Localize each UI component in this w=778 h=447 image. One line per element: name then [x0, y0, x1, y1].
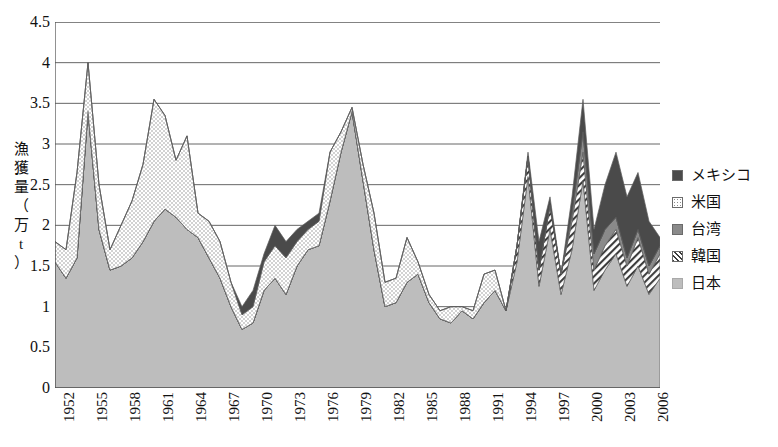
x-axis-tick-label: 1970	[260, 392, 275, 422]
legend-item-taiwan: 台湾	[672, 216, 772, 243]
legend-label-mexico: メキシコ	[691, 168, 751, 183]
legend-item-korea: 韓国	[672, 243, 772, 270]
x-axis-tick-label: 1952	[62, 392, 77, 422]
legend-swatch-mexico	[672, 170, 683, 181]
x-axis-tick-label: 1961	[161, 392, 176, 422]
x-axis-tick-label: 1958	[128, 392, 143, 422]
legend-swatch-japan	[672, 278, 683, 289]
chart-legend: メキシコ 米国 台湾 韓国 日本	[672, 162, 772, 297]
x-axis-tick-label: 1964	[194, 392, 209, 422]
legend-swatch-korea	[672, 251, 683, 262]
legend-swatch-taiwan	[672, 224, 683, 235]
x-axis-tick-label: 1994	[524, 392, 539, 422]
x-axis-tick-label: 1967	[227, 392, 242, 422]
legend-item-mexico: メキシコ	[672, 162, 772, 189]
x-axis-tick-label: 2003	[623, 392, 638, 422]
legend-label-usa: 米国	[691, 195, 721, 210]
x-axis-tick-label: 1982	[392, 392, 407, 422]
x-axis-tick-label: 1976	[326, 392, 341, 422]
x-axis-tick-labels: 1952195519581961196419671970197319761979…	[0, 0, 778, 447]
legend-swatch-usa	[672, 197, 683, 208]
legend-label-japan: 日本	[691, 276, 721, 291]
x-axis-tick-label: 1979	[359, 392, 374, 422]
x-axis-tick-label: 1985	[425, 392, 440, 422]
x-axis-tick-label: 2000	[590, 392, 605, 422]
x-axis-tick-label: 1955	[95, 392, 110, 422]
x-axis-tick-label: 1991	[491, 392, 506, 422]
x-axis-tick-label: 2006	[656, 392, 671, 422]
x-axis-tick-label: 1973	[293, 392, 308, 422]
legend-label-taiwan: 台湾	[691, 222, 721, 237]
legend-label-korea: 韓国	[691, 249, 721, 264]
x-axis-tick-label: 1997	[557, 392, 572, 422]
chart-figure: 漁 獲 量 （ 万 t ） 4.543.532.521.510.50	[0, 0, 778, 447]
legend-item-usa: 米国	[672, 189, 772, 216]
legend-item-japan: 日本	[672, 270, 772, 297]
x-axis-tick-label: 1988	[458, 392, 473, 422]
